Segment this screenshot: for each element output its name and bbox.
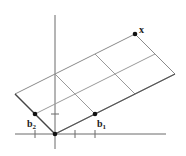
point-b1 [93,112,98,117]
label-b2: b2 [27,118,37,131]
grid-lines-b1 [35,54,155,114]
origin-point [53,132,58,137]
point-x [133,32,138,37]
label-x: x [139,24,144,35]
point-b2 [33,112,38,117]
edge-b1 [55,74,175,134]
lattice-diagram: b1 b2 x [0,0,186,156]
label-b1: b1 [97,118,107,131]
